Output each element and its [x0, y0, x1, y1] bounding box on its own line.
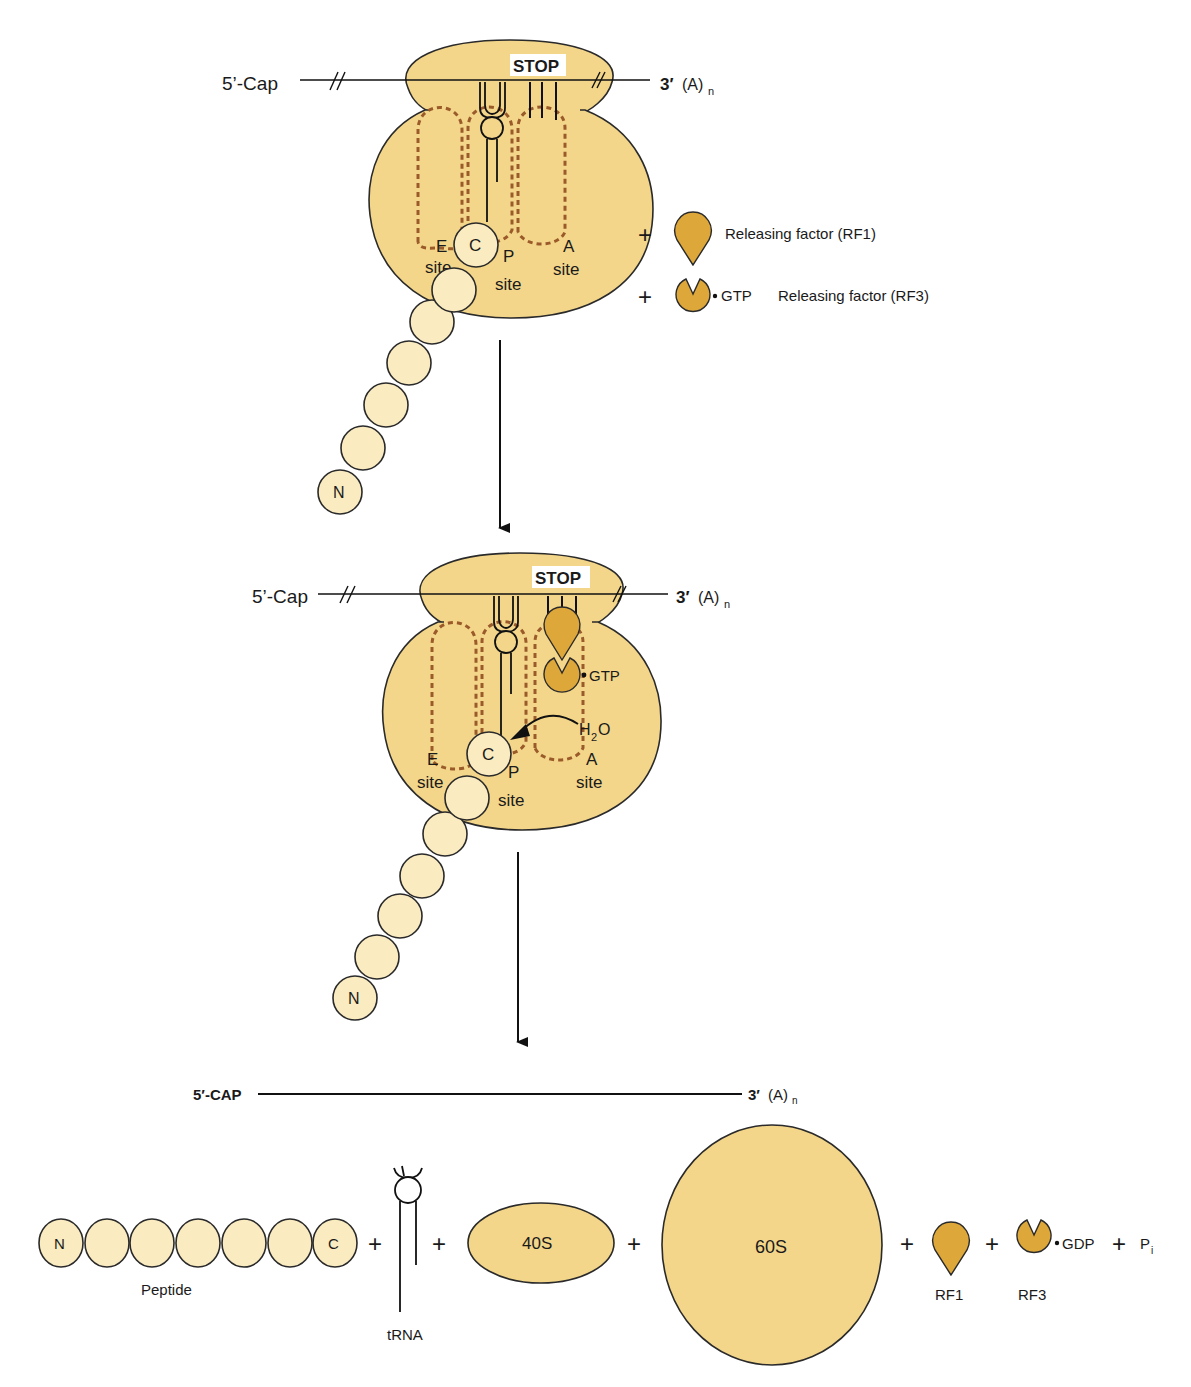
- water-label-sub: 2: [591, 731, 597, 743]
- p-site-letter: P: [508, 763, 519, 782]
- plus-sign: +: [985, 1230, 999, 1257]
- reagent-rf1: + Releasing factor (RF1): [638, 212, 876, 265]
- rf1-icon: [933, 1222, 970, 1275]
- mrna-5-cap-label: 5’-Cap: [252, 586, 308, 607]
- poly-a-label: (A): [698, 589, 719, 606]
- stage1-ribosome-complex: 5’-Cap 3′ (A) n STOP E site: [222, 40, 929, 514]
- plus-sign: +: [638, 283, 652, 310]
- mrna-3-end-label: 3′: [676, 588, 690, 607]
- reagent-rf3: + GTP Releasing factor (RF3): [638, 279, 929, 311]
- e-site-letter: E: [436, 237, 447, 256]
- plus-sign: +: [368, 1230, 382, 1257]
- peptide-c-terminus: C: [328, 1235, 339, 1252]
- a-site-word: site: [553, 260, 579, 279]
- rf3-label: RF3: [1018, 1286, 1046, 1303]
- p-site-word: site: [495, 275, 521, 294]
- plus-sign: +: [638, 221, 652, 248]
- poly-a-subscript: n: [792, 1095, 798, 1106]
- phosphate-label: P: [1140, 1235, 1150, 1252]
- released-peptide: [39, 1219, 357, 1267]
- peptide-n-terminus: N: [54, 1235, 65, 1252]
- water-label-h: H: [579, 721, 591, 738]
- rf1-label: RF1: [935, 1286, 963, 1303]
- trna-label: tRNA: [387, 1326, 423, 1343]
- large-subunit-label: 60S: [755, 1237, 787, 1257]
- gtp-label: GTP: [589, 667, 620, 684]
- a-site-letter: A: [563, 237, 575, 256]
- gtp-label: GTP: [721, 287, 752, 304]
- p-site-word: site: [498, 791, 524, 810]
- free-trna: [394, 1166, 422, 1312]
- water-label-o: O: [598, 721, 610, 738]
- translation-termination-diagram: 5’-Cap 3′ (A) n STOP E site: [0, 0, 1191, 1387]
- rf3-icon: [1017, 1220, 1051, 1252]
- poly-a-label: (A): [768, 1086, 788, 1103]
- rf1-icon: [675, 212, 712, 265]
- stop-codon-label: STOP: [535, 569, 581, 588]
- phosphate-subscript: i: [1151, 1245, 1153, 1256]
- plus-sign: +: [900, 1230, 914, 1257]
- plus-sign: +: [1112, 1230, 1126, 1257]
- n-terminus-label: N: [348, 990, 360, 1007]
- a-site-letter: A: [586, 750, 598, 769]
- a-site-word: site: [576, 773, 602, 792]
- stage2-ribosome-complex: 5’-Cap 3′ (A) n STOP GTP: [252, 553, 730, 1020]
- mrna-3-end-label: 3′: [748, 1086, 760, 1103]
- e-site-word: site: [417, 773, 443, 792]
- plus-sign: +: [432, 1230, 446, 1257]
- e-site-letter: E: [427, 750, 438, 769]
- poly-a-subscript: n: [724, 598, 730, 610]
- mrna-3-end-label: 3′: [660, 75, 674, 94]
- stop-codon-label: STOP: [513, 57, 559, 76]
- c-terminus-label: C: [482, 745, 494, 764]
- mrna-5-cap-label: 5′-CAP: [193, 1086, 242, 1103]
- p-site-letter: P: [503, 247, 514, 266]
- mrna-5-cap-label: 5’-Cap: [222, 73, 278, 94]
- rf1-legend-label: Releasing factor (RF1): [725, 225, 876, 242]
- poly-a-label: (A): [682, 76, 703, 93]
- n-terminus-label: N: [333, 484, 345, 501]
- poly-a-subscript: n: [708, 85, 714, 97]
- rf3-legend-label: Releasing factor (RF3): [778, 287, 929, 304]
- small-subunit-label: 40S: [522, 1234, 552, 1253]
- c-terminus-label: C: [469, 236, 481, 255]
- stage3-products: 5′-CAP 3′ (A) n N C Peptide + tRNA +: [39, 1086, 1153, 1365]
- plus-sign: +: [627, 1230, 641, 1257]
- gdp-label: GDP: [1062, 1235, 1095, 1252]
- rf3-icon: [676, 279, 710, 311]
- peptide-label: Peptide: [141, 1281, 192, 1298]
